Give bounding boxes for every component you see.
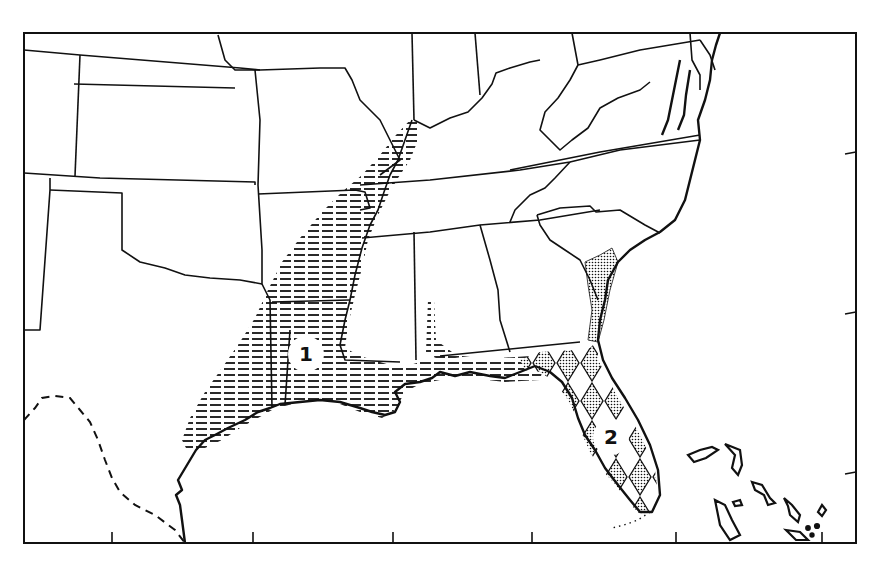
new-mexico-east-line [24,178,50,330]
indiana-ohio-line [475,33,480,95]
zone-1-hatched-range [182,118,545,452]
mississippi-alabama-line [414,232,416,360]
frame-ticks [112,152,856,543]
west-virginia-outline [540,33,700,150]
ohio-river [414,60,540,128]
oklahoma-panhandle [50,190,262,284]
kansas-oklahoma-line [24,173,255,185]
zone-1-label: 1 [288,336,324,372]
bahamas-islands [688,444,826,540]
colorado-east-line [75,55,80,176]
mexico-border-dashed [24,396,185,543]
chesapeake-shore [662,60,690,135]
map-frame [24,33,856,543]
virginia-north-carolina-line [510,135,700,170]
zone-2-label: 2 [593,419,629,455]
zone-2-stippled-range [520,248,658,514]
illinois-indiana-line [412,33,414,120]
florida-keys-dotted [612,512,650,528]
tennessee-south-line [362,210,600,238]
nebraska-kansas-line [74,84,235,88]
distribution-map [0,0,880,563]
tennessee-north-carolina-line [510,162,570,222]
iowa-missouri-line [218,35,400,175]
alabama-georgia-line [480,225,510,352]
